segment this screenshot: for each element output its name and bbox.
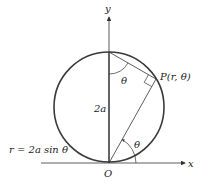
- angle-top-label: θ: [121, 75, 127, 86]
- x-axis-label: x: [188, 158, 194, 169]
- equation-label: r = 2a sin θ: [9, 144, 68, 155]
- point-p-label: P(r, θ): [159, 71, 191, 82]
- diagram-canvas: y x O P(r, θ) 2a θ θ r = 2a sin θ: [0, 0, 207, 187]
- angle-bottom-label: θ: [134, 139, 140, 150]
- y-axis-label: y: [104, 3, 111, 14]
- right-angle-marker: [144, 75, 151, 87]
- chord-top-to-p: [109, 52, 156, 79]
- origin-label: O: [104, 168, 112, 179]
- polar-circle-diagram: y x O P(r, θ) 2a θ θ r = 2a sin θ: [0, 0, 207, 187]
- angle-arc-top: [109, 63, 128, 74]
- diameter-label: 2a: [93, 103, 106, 114]
